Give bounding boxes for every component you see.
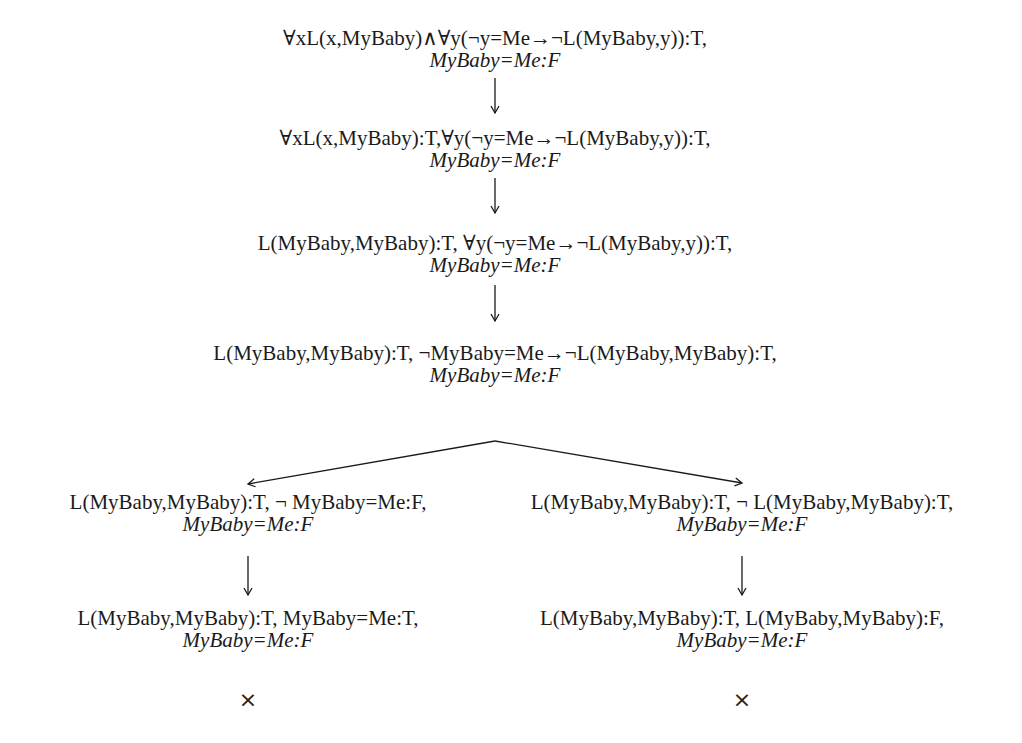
tableau-node-1: ∀xL(x,MyBaby)∧∀y(¬y=Me→¬L(MyBaby,y)):T, … <box>283 27 707 71</box>
node-1-line-1: ∀xL(x,MyBaby)∧∀y(¬y=Me→¬L(MyBaby,y)):T, <box>283 27 707 49</box>
node-5l-line-1: L(MyBaby,MyBaby):T, ¬ MyBaby=Me:F, <box>70 491 427 513</box>
node-5l-line-2: MyBaby=Me:F <box>70 513 427 535</box>
node-6l-line-2: MyBaby=Me:F <box>78 629 419 651</box>
node-2-line-1: ∀xL(x,MyBaby):T,∀y(¬y=Me→¬L(MyBaby,y)):T… <box>280 127 711 149</box>
node-5r-line-1: L(MyBaby,MyBaby):T, ¬ L(MyBaby,MyBaby):T… <box>531 491 953 513</box>
edge-n4-n5l <box>248 441 495 484</box>
tableau-node-3: L(MyBaby,MyBaby):T, ∀y(¬y=Me→¬L(MyBaby,y… <box>258 232 733 276</box>
closed-branch-left-icon: × <box>239 689 257 711</box>
node-3-line-1: L(MyBaby,MyBaby):T, ∀y(¬y=Me→¬L(MyBaby,y… <box>258 232 733 254</box>
tableau-node-6-left: L(MyBaby,MyBaby):T, MyBaby=Me:T, MyBaby=… <box>78 607 419 651</box>
node-4-line-1: L(MyBaby,MyBaby):T, ¬MyBaby=Me→¬L(MyBaby… <box>213 342 776 364</box>
tableau-node-6-right: L(MyBaby,MyBaby):T, L(MyBaby,MyBaby):F, … <box>540 607 944 651</box>
node-5r-line-2: MyBaby=Me:F <box>531 513 953 535</box>
node-4-line-2: MyBaby=Me:F <box>213 364 776 386</box>
node-1-line-2: MyBaby=Me:F <box>283 49 707 71</box>
node-3-line-2: MyBaby=Me:F <box>258 254 733 276</box>
node-2-line-2: MyBaby=Me:F <box>280 149 711 171</box>
tableau-node-2: ∀xL(x,MyBaby):T,∀y(¬y=Me→¬L(MyBaby,y)):T… <box>280 127 711 171</box>
node-6r-line-2: MyBaby=Me:F <box>540 629 944 651</box>
tableau-node-5-left: L(MyBaby,MyBaby):T, ¬ MyBaby=Me:F, MyBab… <box>70 491 427 535</box>
tableau-node-5-right: L(MyBaby,MyBaby):T, ¬ L(MyBaby,MyBaby):T… <box>531 491 953 535</box>
node-6l-line-1: L(MyBaby,MyBaby):T, MyBaby=Me:T, <box>78 607 419 629</box>
edge-n4-n5r <box>495 441 742 483</box>
tableau-node-4: L(MyBaby,MyBaby):T, ¬MyBaby=Me→¬L(MyBaby… <box>213 342 776 386</box>
closed-branch-right-icon: × <box>733 689 751 711</box>
node-6r-line-1: L(MyBaby,MyBaby):T, L(MyBaby,MyBaby):F, <box>540 607 944 629</box>
